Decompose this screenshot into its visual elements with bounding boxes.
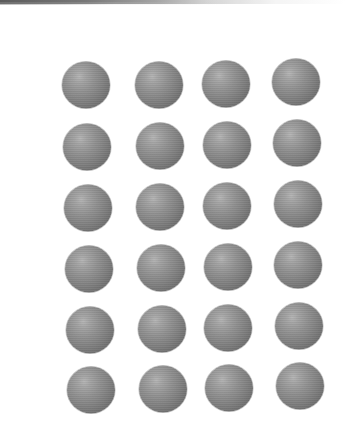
sphere [273,120,321,167]
sphere [205,365,253,412]
sphere [203,122,251,169]
sphere [136,123,184,170]
sphere [274,242,322,289]
sphere [62,62,110,109]
sphere [139,366,187,413]
sphere [275,303,323,350]
sphere-grid [0,0,345,437]
sphere [274,181,322,228]
sphere [136,184,184,231]
sphere [138,306,186,353]
sphere [65,246,113,293]
sphere [63,124,111,171]
sphere [204,305,252,352]
sphere [203,183,251,230]
sphere [135,62,183,109]
sphere [202,61,250,108]
sphere [64,185,112,232]
sphere [66,307,114,354]
sphere [204,244,252,291]
sphere [137,245,185,292]
sphere [272,59,320,106]
sphere [67,367,115,414]
sphere [276,363,324,410]
